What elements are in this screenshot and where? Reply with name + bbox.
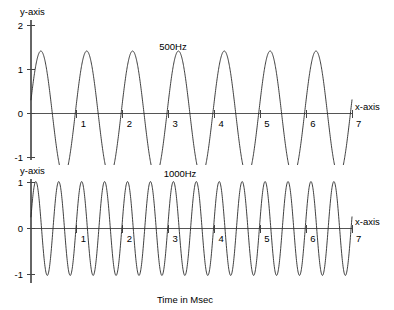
y-tick-label: -1	[15, 152, 23, 163]
x-tick-label: 1	[81, 233, 86, 244]
waveform-path-500hz	[31, 51, 352, 165]
x-tick-label: 2	[127, 233, 132, 244]
waveform-figure: 210-1 1234567 y-axis x-axis 500Hz 10-1 1…	[0, 0, 394, 310]
x-tick-label: 6	[310, 118, 315, 129]
y-tick-label: -1	[15, 269, 23, 280]
x-tick-label: 5	[264, 233, 269, 244]
y-axis-label: y-axis	[20, 6, 45, 17]
x-tick-label: 1	[81, 118, 86, 129]
x-tick-label: 7	[356, 233, 361, 244]
x-tick-label: 7	[356, 118, 361, 129]
x-tick-label: 4	[218, 118, 223, 129]
x-tick-labels: 1234567	[81, 118, 361, 129]
chart-1000hz: 10-1 1234567 y-axis x-axis 1000Hz Time i…	[0, 165, 394, 310]
x-tick-label: 4	[218, 233, 223, 244]
y-tick-label: 2	[18, 20, 23, 31]
y-tick-label: 0	[18, 108, 23, 119]
series-label-1000hz: 1000Hz	[164, 168, 197, 179]
x-tick-label: 3	[173, 233, 178, 244]
y-tick-label: 0	[18, 223, 23, 234]
x-tick-labels: 1234567	[81, 233, 361, 244]
y-tick-label: 1	[18, 64, 23, 75]
y-tick-label: 1	[18, 177, 23, 188]
x-tick-label: 5	[264, 118, 269, 129]
x-tick-label: 6	[310, 233, 315, 244]
chart-500hz: 210-1 1234567 y-axis x-axis 500Hz	[0, 0, 394, 165]
x-axis-label: x-axis	[355, 216, 380, 227]
y-axis-label: y-axis	[20, 165, 45, 176]
figure-caption: Time in Msec	[157, 294, 213, 305]
x-tick-label: 3	[173, 118, 178, 129]
x-tick-label: 2	[127, 118, 132, 129]
x-axis-label: x-axis	[355, 101, 380, 112]
top-chart-axes	[31, 20, 352, 160]
y-tick-labels: 210-1	[15, 20, 23, 163]
series-label-500hz: 500Hz	[159, 41, 187, 52]
y-tick-labels: 10-1	[15, 177, 23, 280]
